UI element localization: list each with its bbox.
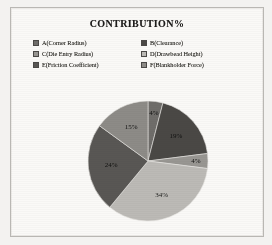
chart-legend: A(Corner Radius) B(Clearance) C(Die Entr… [33,37,247,70]
legend-label-b: B(Clearance) [150,39,183,46]
pie-slice-label-a: 4% [149,109,159,117]
page-title: CONTRIBUTION% [11,18,263,29]
legend-item-e: E(Friction Coefficient) [33,61,141,68]
legend-label-c: C(Die Entry Radius) [42,50,93,57]
pie-slice-label-b: 19% [169,132,182,140]
legend-swatch-c-icon [33,51,39,57]
pie-chart-svg: 4%19%4%34%24%15% [87,100,209,222]
legend-item-c: C(Die Entry Radius) [33,50,141,57]
chart-page: CONTRIBUTION% A(Corner Radius) B(Clearan… [10,7,264,237]
legend-swatch-b-icon [141,40,147,46]
legend-swatch-d-icon [141,51,147,57]
legend-label-a: A(Corner Radius) [42,39,87,46]
figure-container: CONTRIBUTION% A(Corner Radius) B(Clearan… [0,0,272,245]
legend-swatch-f-icon [141,62,147,68]
pie-chart: 4%19%4%34%24%15% [87,100,209,222]
legend-swatch-a-icon [33,40,39,46]
legend-item-d: D(Drawbead Height) [141,50,247,57]
legend-item-b: B(Clearance) [141,39,247,46]
pie-slice-label-f: 15% [125,123,138,131]
legend-label-e: E(Friction Coefficient) [42,61,99,68]
legend-label-d: D(Drawbead Height) [150,50,202,57]
pie-slice-label-d: 34% [155,191,168,199]
legend-item-f: F(Blankholder Force) [141,61,247,68]
pie-slice-label-c: 4% [191,157,201,165]
legend-label-f: F(Blankholder Force) [150,61,204,68]
legend-swatch-e-icon [33,62,39,68]
pie-slice-label-e: 24% [105,161,118,169]
legend-item-a: A(Corner Radius) [33,39,141,46]
